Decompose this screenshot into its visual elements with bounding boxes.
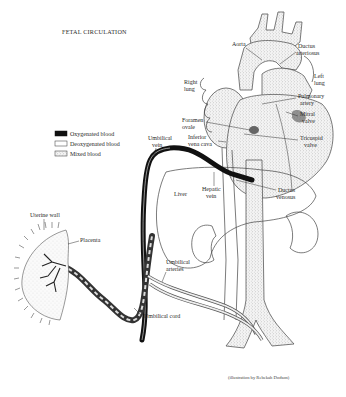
label-mitral-valve-2: valve [302,118,315,124]
label-left-lung-1: Left [314,73,324,79]
label-tricuspid-valve-2: valve [304,142,317,148]
label-aorta: Aorta [232,41,246,47]
label-umbilical-arteries-1: Umbilical [166,259,190,265]
kidney-right [286,212,318,253]
label-ductus-venosus-1: Ductus [278,187,296,193]
legend-label-deoxygenated: Deoxygenated blood [70,141,120,147]
label-umbilical-vein-2: vein [152,142,162,148]
kidney-left [192,225,216,263]
label-ductus-venosus-2: venosus [276,194,296,200]
label-umbilical-cord: Umbilical cord [144,313,180,319]
label-inferior-vena-cava-1: Inferior [188,134,206,140]
placenta [14,222,69,325]
label-right-lung-2: lung [184,86,195,92]
umbilical-cord [62,236,152,320]
label-uterine-wall: Uterine wall [30,212,60,218]
label-hepatic-vein-2: vein [206,193,216,199]
label-placenta: Placenta [80,237,101,243]
label-foramen-ovale-2: ovale [182,124,195,130]
legend-swatch-oxygenated [55,131,67,136]
label-left-lung-2: lung [314,80,325,86]
diagram-title: FETAL CIRCULATION [62,28,127,35]
label-ductus-arteriosus-2: arteriosus [296,50,320,56]
label-right-lung-1: Right [184,79,198,85]
label-umbilical-vein-1: Umbilical [148,135,172,141]
legend: Oxygenated blood Deoxygenated blood Mixe… [55,131,120,157]
legend-label-oxygenated: Oxygenated blood [70,131,114,137]
legend-swatch-mixed [55,151,67,156]
label-tricuspid-valve-1: Tricuspid [300,135,323,141]
label-liver: Liver [174,191,187,197]
label-mitral-valve-1: Mitral [300,111,315,117]
label-hepatic-vein-1: Hepatic [202,186,221,192]
illustration-credit: (illustration by Rebekah Dodson) [228,375,290,380]
ventricles [227,94,334,198]
label-umbilical-arteries-2: arteries [166,266,184,272]
label-pulmonary-artery-1: Pulmonary [298,93,324,99]
label-pulmonary-artery-2: artery [300,100,314,106]
label-inferior-vena-cava-2: vena cava [188,141,212,147]
legend-label-mixed: Mixed blood [70,151,101,157]
legend-swatch-deoxygenated [55,141,67,146]
label-ductus-arteriosus-1: Ductus [298,43,316,49]
fetal-circulation-diagram: FETAL CIRCULATION Liver [0,0,346,397]
label-foramen-ovale-1: Foramen [182,117,203,123]
